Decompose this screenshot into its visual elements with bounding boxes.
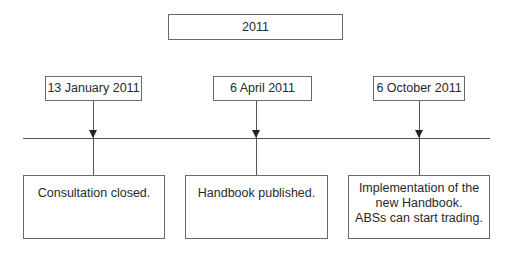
year-header-box: 2011 xyxy=(168,14,343,40)
event-3-description-line-1: Implementation of the xyxy=(349,181,489,196)
event-2-description-line-1: Handbook published. xyxy=(186,186,327,201)
timeline-axis xyxy=(23,138,490,139)
event-3-description-line-3: ABSs can start trading. xyxy=(349,211,489,226)
event-2-description-box: Handbook published. xyxy=(185,175,328,239)
event-3-arrow-down-icon xyxy=(415,130,423,138)
event-2-date-box: 6 April 2011 xyxy=(213,76,312,101)
event-1-description-line-1: Consultation closed. xyxy=(24,186,164,201)
event-1-date-box: 13 January 2011 xyxy=(45,76,142,101)
year-label: 2011 xyxy=(242,20,269,35)
event-3-description-line-2: new Handbook. xyxy=(349,196,489,211)
event-3-description-box: Implementation of the new Handbook. ABSs… xyxy=(348,175,490,239)
event-1-arrow-down-icon xyxy=(89,130,97,138)
event-2-date: 6 April 2011 xyxy=(230,81,295,96)
event-2-arrow-down-icon xyxy=(252,130,260,138)
event-1-description-box: Consultation closed. xyxy=(23,175,165,239)
event-3-date-box: 6 October 2011 xyxy=(373,76,465,101)
event-1-date: 13 January 2011 xyxy=(47,81,139,96)
event-3-date: 6 October 2011 xyxy=(376,81,461,96)
